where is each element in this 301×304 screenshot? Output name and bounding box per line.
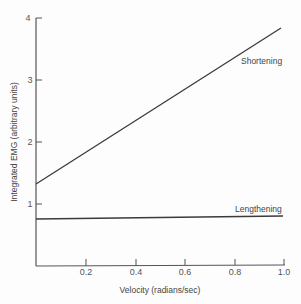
x-tick-1.0: 1.0 (278, 267, 291, 277)
y-axis-label: Integrated EMG (arbitrary units) (9, 82, 19, 202)
y-tick-2: 2 (27, 137, 32, 147)
shortening-label: Shortening (241, 56, 282, 66)
lengthening-line (36, 216, 283, 219)
x-axis-label: Velocity (radians/sec) (120, 285, 201, 295)
x-tick-0.4: 0.4 (130, 267, 143, 277)
y-tick-4: 4 (25, 13, 30, 23)
x-tick-0.2: 0.2 (80, 267, 93, 277)
y-ticks (36, 18, 42, 204)
lengthening-label: Lengthening (235, 204, 282, 214)
chart: 4 3 2 1 0.2 0.4 0.6 0.8 1.0 Shortening L… (0, 0, 301, 304)
x-tick-0.8: 0.8 (229, 267, 242, 277)
x-tick-0.6: 0.6 (179, 267, 192, 277)
y-tick-1: 1 (27, 199, 32, 209)
y-tick-3: 3 (27, 75, 32, 85)
x-axis (36, 265, 285, 266)
shortening-line (36, 28, 281, 184)
